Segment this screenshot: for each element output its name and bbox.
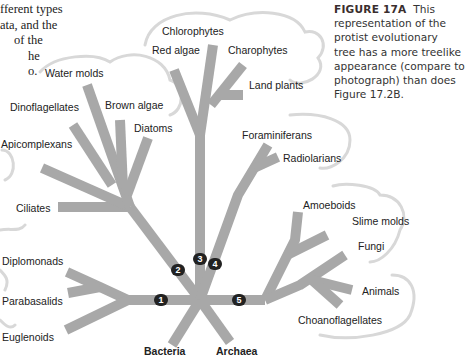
label-bacteria: Bacteria bbox=[144, 345, 185, 357]
node-marker-2: 2 bbox=[171, 264, 185, 276]
label-charophytes: Charophytes bbox=[228, 44, 288, 56]
label-animals: Animals bbox=[362, 285, 399, 297]
cloud-outline-left bbox=[2, 150, 13, 180]
branch-archaea bbox=[200, 300, 230, 342]
label-fungi: Fungi bbox=[358, 240, 384, 252]
label-chlorophytes: Chlorophytes bbox=[162, 25, 224, 37]
branch-bacteria bbox=[172, 300, 200, 345]
label-water-molds: Water molds bbox=[45, 67, 104, 79]
label-foraminiferans: Foraminiferans bbox=[242, 129, 312, 141]
label-land-plants: Land plants bbox=[249, 79, 303, 91]
label-dinoflagellates: Dinoflagellates bbox=[10, 101, 79, 113]
cloud-outline-left-2 bbox=[0, 225, 25, 230]
label-euglenoids: Euglenoids bbox=[2, 331, 54, 343]
label-archaea: Archaea bbox=[216, 345, 257, 357]
label-parabasalids: Parabasalids bbox=[2, 295, 63, 307]
label-apicomplexans: Apicomplexans bbox=[1, 138, 72, 150]
cloud-outline-left-4 bbox=[0, 320, 15, 327]
label-red-algae: Red algae bbox=[152, 44, 200, 56]
label-ciliates: Ciliates bbox=[16, 202, 50, 214]
branch-brown-algae bbox=[120, 120, 123, 188]
branch-chromalveolates bbox=[130, 207, 200, 300]
branch-diatoms bbox=[127, 138, 148, 195]
branch-parabasalids bbox=[68, 287, 100, 293]
node-marker-1: 1 bbox=[154, 294, 168, 306]
label-radiolarians: Radiolarians bbox=[283, 152, 341, 164]
label-slime-molds: Slime molds bbox=[352, 215, 409, 227]
label-diplomonads: Diplomonads bbox=[2, 255, 63, 267]
node-marker-4: 4 bbox=[208, 258, 222, 270]
branch-chlorophytes bbox=[200, 45, 213, 135]
label-amoeboids: Amoeboids bbox=[303, 199, 356, 211]
label-brown-algae: Brown algae bbox=[105, 99, 163, 111]
node-marker-5: 5 bbox=[232, 294, 246, 306]
branch-red-algae bbox=[174, 70, 200, 135]
label-diatoms: Diatoms bbox=[134, 122, 173, 134]
branch-euglenoids bbox=[66, 300, 128, 330]
node-marker-3: 3 bbox=[193, 253, 207, 265]
cloud-outline-left-3 bbox=[0, 270, 7, 290]
tree-branches bbox=[42, 45, 352, 345]
label-choanoflagellates: Choanoflagellates bbox=[298, 314, 382, 326]
